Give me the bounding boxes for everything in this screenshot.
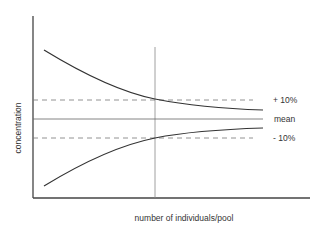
concentration-vs-pool-size-chart: + 10% mean - 10% number of individuals/p… (0, 0, 326, 228)
lower-bound-curve (44, 128, 263, 186)
upper-bound-curve (44, 50, 263, 110)
minus-10-percent-label: - 10% (273, 133, 296, 143)
x-axis-title: number of individuals/pool (135, 213, 234, 223)
y-axis-title: concentration (13, 102, 23, 153)
mean-label: mean (274, 114, 296, 124)
plus-10-percent-label: + 10% (273, 95, 298, 105)
